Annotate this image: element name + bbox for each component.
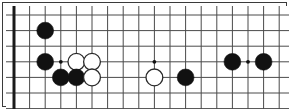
figure-frame [2, 2, 287, 107]
star-point-marker [246, 60, 250, 64]
black-stone[interactable] [37, 22, 54, 39]
white-stone[interactable] [68, 53, 85, 70]
black-stone[interactable] [37, 53, 54, 70]
star-point-marker [153, 60, 157, 64]
black-stone[interactable] [177, 69, 194, 86]
go-board-canvas [6, 6, 289, 109]
board-surface [6, 6, 289, 109]
go-diagram-root [0, 0, 290, 111]
white-stone[interactable] [84, 53, 101, 70]
white-stone[interactable] [146, 69, 163, 86]
black-stone[interactable] [255, 53, 272, 70]
black-stone[interactable] [52, 69, 69, 86]
white-stone[interactable] [84, 69, 101, 86]
black-stone[interactable] [68, 69, 85, 86]
star-point-marker [59, 60, 63, 64]
black-stone[interactable] [224, 53, 241, 70]
